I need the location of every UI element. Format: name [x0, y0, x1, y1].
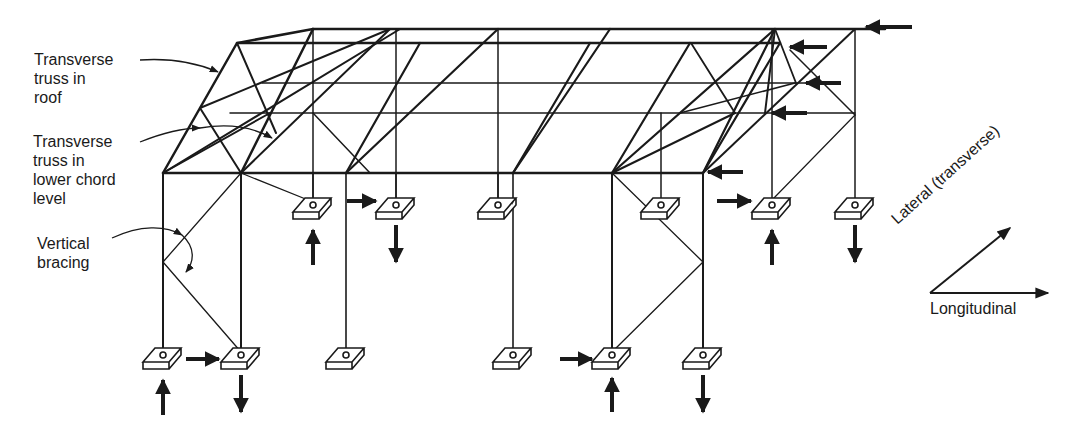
label-line: Vertical	[37, 234, 89, 253]
label-line: Transverse	[33, 132, 116, 151]
label-lower-chord-truss: Transverse truss in lower chord level	[33, 132, 116, 208]
label-line: truss in	[33, 151, 116, 170]
label-line: bracing	[37, 253, 89, 272]
braced-frame-diagram	[0, 0, 1083, 436]
axis-label-longitudinal: Longitudinal	[930, 300, 1016, 318]
label-line: level	[33, 189, 116, 208]
force-arrows	[163, 27, 912, 415]
label-line: truss in	[34, 69, 113, 88]
label-vertical-bracing: Vertical bracing	[37, 234, 89, 272]
label-line: roof	[34, 88, 113, 107]
label-line: Transverse	[34, 50, 113, 69]
label-line: lower chord	[33, 170, 116, 189]
label-roof-truss: Transverse truss in roof	[34, 50, 113, 107]
footings	[143, 198, 873, 369]
axes-indicator	[930, 228, 1048, 293]
